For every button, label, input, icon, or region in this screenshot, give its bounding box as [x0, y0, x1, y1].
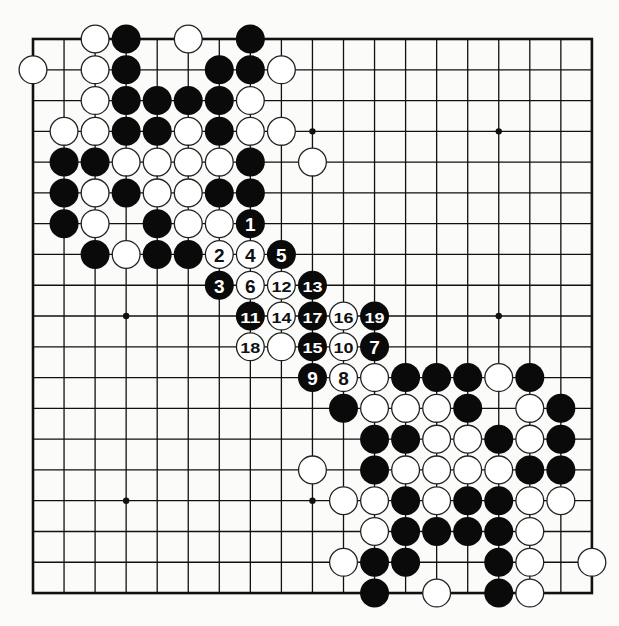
white-stone: [547, 487, 575, 515]
white-stone: [516, 518, 544, 546]
move-number: 11: [240, 309, 260, 326]
move-5: 5: [267, 240, 296, 269]
white-stone: [485, 364, 513, 392]
move-number: 17: [302, 309, 322, 326]
move-3: 3: [205, 271, 234, 300]
black-stone: [546, 425, 575, 454]
move-13: 13: [298, 271, 327, 300]
star-point: [309, 128, 315, 134]
white-stone: [143, 179, 171, 207]
white-stone: [516, 394, 544, 422]
white-stone: [112, 148, 140, 176]
black-stone: [50, 178, 79, 207]
black-stone: [515, 455, 544, 484]
white-stone: [423, 394, 451, 422]
black-stone: [143, 86, 172, 115]
white-stone: [392, 394, 420, 422]
move-14: 14: [268, 302, 296, 330]
move-number: 4: [245, 245, 256, 266]
white-stone: [516, 548, 544, 576]
black-stone: [422, 517, 451, 546]
white-stone: [236, 87, 264, 115]
white-stone: [454, 425, 482, 453]
move-9: 9: [298, 363, 327, 392]
black-stone: [391, 363, 420, 392]
white-stone: [516, 579, 544, 607]
black-stone: [484, 425, 513, 454]
white-stone: [174, 210, 202, 238]
white-stone: [205, 210, 233, 238]
star-point: [123, 313, 129, 319]
white-stone: [174, 117, 202, 145]
white-stone: [50, 117, 78, 145]
white-stone: [268, 56, 296, 84]
white-stone: [143, 148, 171, 176]
black-stone: [112, 55, 141, 84]
white-stone: [174, 179, 202, 207]
move-11: 11: [236, 302, 265, 331]
black-stone: [81, 240, 110, 269]
black-stone: [112, 117, 141, 146]
move-2: 2: [205, 241, 233, 269]
white-stone: [454, 456, 482, 484]
move-number: 9: [307, 368, 318, 389]
black-stone: [484, 517, 513, 546]
black-stone: [50, 148, 79, 177]
move-number: 5: [276, 245, 287, 266]
white-stone: [392, 456, 420, 484]
move-4: 4: [236, 241, 264, 269]
move-19: 19: [360, 302, 389, 331]
move-17: 17: [298, 302, 327, 331]
white-stone: [268, 117, 296, 145]
black-stone: [453, 363, 482, 392]
move-number: 1: [245, 214, 256, 235]
white-stone: [361, 364, 389, 392]
move-number: 8: [338, 368, 349, 389]
white-stone: [112, 241, 140, 269]
move-number: 7: [369, 337, 380, 358]
white-stone: [236, 117, 264, 145]
black-stone: [515, 363, 544, 392]
black-stone: [422, 363, 451, 392]
black-stone: [391, 486, 420, 515]
white-stone: [423, 487, 451, 515]
white-stone: [516, 425, 544, 453]
move-number: 18: [240, 339, 260, 356]
black-stone: [236, 148, 265, 177]
black-stone: [391, 517, 420, 546]
black-stone: [81, 148, 110, 177]
move-8: 8: [330, 364, 358, 392]
star-point: [496, 313, 502, 319]
star-point: [496, 128, 502, 134]
black-stone: [360, 548, 389, 577]
go-board-diagram: 12345678910111213141516171819: [0, 0, 619, 626]
black-stone: [50, 209, 79, 238]
white-stone: [19, 56, 47, 84]
move-7: 7: [360, 332, 389, 361]
black-stone: [205, 55, 234, 84]
move-10: 10: [330, 333, 358, 361]
white-stone: [330, 487, 358, 515]
move-number: 15: [302, 339, 322, 356]
black-stone: [112, 25, 141, 54]
black-stone: [174, 86, 203, 115]
black-stone: [205, 86, 234, 115]
black-stone: [484, 548, 513, 577]
black-stone: [360, 455, 389, 484]
go-board: 12345678910111213141516171819: [0, 0, 619, 626]
black-stone: [205, 117, 234, 146]
black-stone: [360, 425, 389, 454]
black-stone: [453, 517, 482, 546]
move-number: 10: [334, 339, 354, 356]
move-number: 16: [334, 309, 354, 326]
move-1: 1: [236, 209, 265, 238]
black-stone: [143, 240, 172, 269]
white-stone: [81, 179, 109, 207]
numbered-moves-layer: 12345678910111213141516171819: [205, 209, 389, 392]
move-number: 19: [365, 309, 385, 326]
black-stone: [236, 25, 265, 54]
black-stone: [236, 178, 265, 207]
white-stone: [485, 456, 513, 484]
move-number: 6: [245, 276, 256, 297]
white-stone: [268, 333, 296, 361]
